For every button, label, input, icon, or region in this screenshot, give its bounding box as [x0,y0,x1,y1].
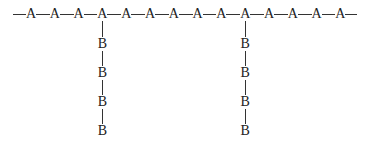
branch-bond [102,21,103,37]
branch-node-b: B [238,66,252,80]
branch-bond [245,21,246,37]
backbone-node-a: A [191,7,205,21]
branch-bond [245,80,246,95]
branch-bond [245,109,246,124]
backbone-node-a: A [286,7,300,21]
backbone-node-a: A [24,7,38,21]
branch-bond [102,80,103,95]
branch-node-b: B [238,124,252,138]
branch-node-b: B [95,95,109,109]
backbone-node-a: A [262,7,276,21]
backbone-node-a: A [119,7,133,21]
backbone-node-a: A [72,7,86,21]
branch-bond [102,51,103,66]
branch-node-b: B [95,66,109,80]
branch-bond [245,51,246,66]
branch-node-b: B [95,37,109,51]
branch-node-b: B [95,124,109,138]
backbone-node-a: A [48,7,62,21]
backbone-node-a: A [238,7,252,21]
backbone-node-a: A [214,7,228,21]
branch-node-b: B [238,37,252,51]
backbone-node-a: A [333,7,347,21]
backbone-node-a: A [310,7,324,21]
branch-node-b: B [238,95,252,109]
backbone-node-a: A [143,7,157,21]
branch-bond [102,109,103,124]
polymer-branch-diagram: AAAAAAAAAAAAAABBBBBBBB [0,0,367,146]
backbone-node-a: A [95,7,109,21]
backbone-node-a: A [167,7,181,21]
